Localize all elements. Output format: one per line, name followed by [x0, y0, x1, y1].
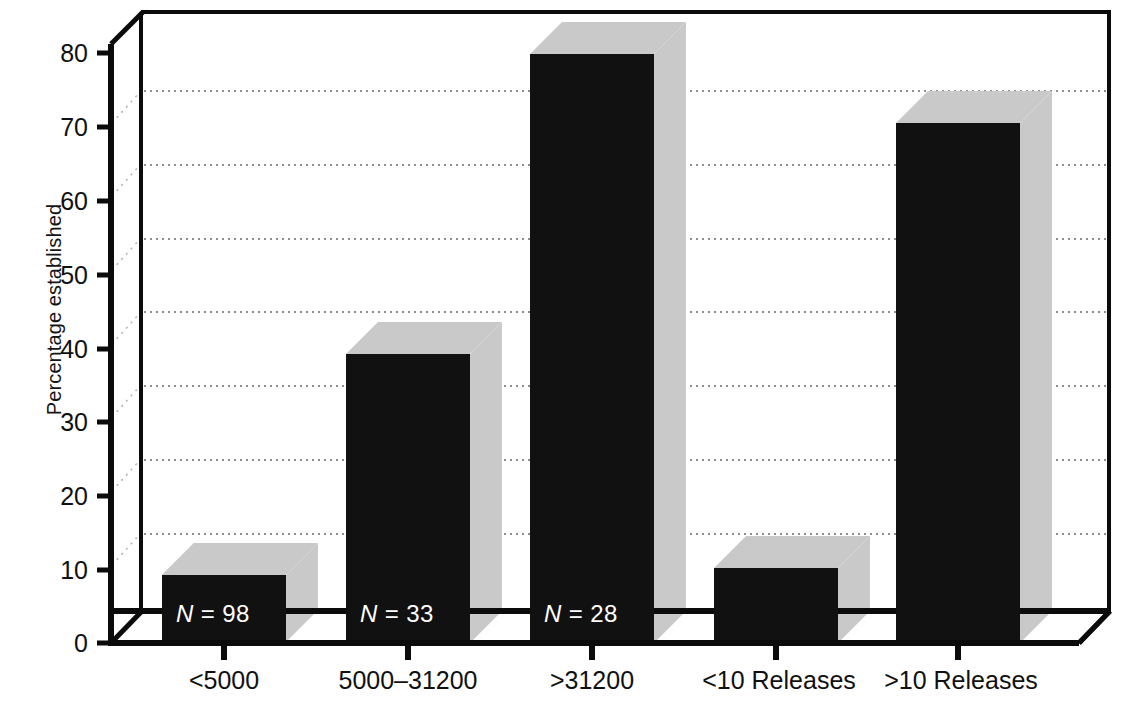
- y-tick-label-40: 40: [32, 337, 88, 362]
- annotation-n-symbol: N: [544, 600, 562, 627]
- x-tick-mark: [955, 643, 961, 660]
- annotation-n-symbol: N: [360, 600, 378, 627]
- bar-annotation-n: N = 98: [176, 600, 250, 628]
- chart-figure: Percentage established: [0, 0, 1124, 705]
- y-tick-label-80: 80: [32, 41, 88, 66]
- x-tick-label-gt31200: >31200: [550, 668, 634, 693]
- annotation-n-value: = 33: [385, 600, 434, 627]
- y-tick-label-60: 60: [32, 189, 88, 214]
- x-tick-label-5000-31200: 5000–31200: [338, 668, 477, 693]
- y-tick-mark: [97, 641, 113, 646]
- x-tick-label-lt10-releases: <10 Releases: [702, 668, 856, 693]
- y-tick-label-30: 30: [32, 410, 88, 435]
- y-tick-label-10: 10: [32, 558, 88, 583]
- annotation-n-value: = 28: [569, 600, 618, 627]
- bar-side-face: [470, 322, 502, 643]
- y-tick-mark: [97, 51, 113, 56]
- y-tick-mark: [97, 273, 113, 278]
- x-tick-mark: [589, 643, 595, 660]
- y-tick-mark: [97, 568, 113, 573]
- bar-annotation-n: N = 28: [544, 600, 618, 628]
- x-tick-mark: [405, 643, 411, 660]
- x-tick-mark: [221, 643, 227, 660]
- x-tick-mark: [773, 643, 779, 660]
- annotation-n-symbol: N: [176, 600, 194, 627]
- bar-front-face: [896, 123, 1020, 643]
- y-tick-label-50: 50: [32, 263, 88, 288]
- y-tick-label-70: 70: [32, 115, 88, 140]
- bar-side-face: [654, 22, 686, 643]
- y-tick-label-0: 0: [32, 631, 88, 656]
- y-tick-mark: [97, 347, 113, 352]
- x-tick-label-gt10-releases: >10 Releases: [884, 668, 1038, 693]
- bar-front-face: [530, 54, 654, 643]
- bar-annotation-n: N = 33: [360, 600, 434, 628]
- y-tick-mark: [97, 125, 113, 130]
- y-tick-label-20: 20: [32, 484, 88, 509]
- x-tick-label-lt5000: <5000: [189, 668, 259, 693]
- y-tick-mark: [97, 199, 113, 204]
- y-tick-mark: [97, 420, 113, 425]
- bar-side-face: [1020, 91, 1052, 643]
- y-tick-mark: [97, 494, 113, 499]
- annotation-n-value: = 98: [201, 600, 250, 627]
- bar-front-face: [714, 568, 838, 643]
